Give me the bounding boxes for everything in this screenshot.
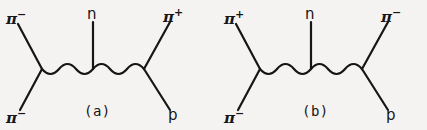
leg-incoming-pion-upper-left — [236, 24, 260, 69]
label-pi-minus-upper-right-charge: − — [392, 6, 401, 19]
leg-incoming-pion-lower-left — [20, 69, 42, 110]
label-pi-minus-lower-left-charge: − — [235, 107, 244, 120]
diagram-canvas — [0, 0, 427, 130]
label-proton: p — [386, 108, 396, 123]
label-pi-minus-lower-left-base: π — [6, 109, 17, 127]
label-pi-minus-lower-left: π− — [6, 108, 26, 126]
diagram-caption-a: (a) — [84, 104, 111, 118]
label-pi-plus-upper-right: π+ — [163, 7, 183, 25]
label-pi-plus-upper-left-base: π — [224, 10, 235, 28]
label-proton-base: p — [168, 106, 178, 124]
label-pi-plus-upper-right-base: π — [163, 8, 174, 26]
label-pi-minus-upper-right: π− — [381, 7, 401, 25]
label-pi-minus-upper-left-charge: − — [17, 8, 26, 21]
label-pi-minus-lower-left: π− — [224, 108, 244, 126]
label-neutron-base: n — [87, 5, 97, 23]
label-pi-minus-lower-left-charge: − — [17, 107, 26, 120]
feynman-diagram-b — [236, 22, 388, 110]
leg-outgoing-pion-upper-right — [144, 22, 170, 69]
label-pi-minus-upper-left: π− — [6, 9, 26, 27]
leg-outgoing-proton-lower-right — [144, 69, 170, 110]
label-pi-minus-lower-left-base: π — [224, 109, 235, 127]
label-pi-plus-upper-left: π+ — [224, 9, 244, 27]
leg-incoming-pion-lower-left — [238, 69, 260, 110]
label-proton-base: p — [386, 106, 396, 124]
diagram-caption-b: (b) — [302, 104, 329, 118]
leg-incoming-pion-upper-left — [18, 24, 42, 69]
label-proton: p — [168, 108, 178, 123]
leg-outgoing-proton-lower-right — [362, 69, 388, 110]
label-neutron-base: n — [305, 5, 315, 23]
feynman-diagram-a — [18, 22, 170, 110]
label-neutron: n — [87, 7, 97, 22]
label-pi-minus-upper-left-base: π — [6, 10, 17, 28]
label-pi-plus-upper-right-charge: + — [174, 6, 183, 19]
feynman-diagram-figure: π−π−nπ+p(a)π+π−nπ−p(b) — [0, 0, 427, 130]
label-pi-minus-upper-right-base: π — [381, 8, 392, 26]
leg-outgoing-pion-upper-right — [362, 22, 388, 69]
label-neutron: n — [305, 7, 315, 22]
label-pi-plus-upper-left-charge: + — [235, 8, 244, 21]
